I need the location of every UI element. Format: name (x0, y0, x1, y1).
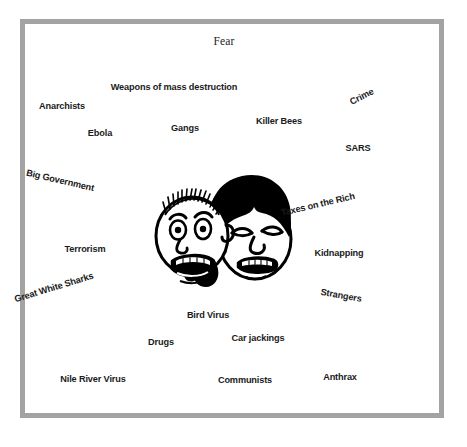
label-terrorism: Terrorism (65, 245, 106, 254)
label-kidnapping: Kidnapping (314, 249, 363, 258)
fear-poster: Fear (0, 0, 467, 447)
frightened-faces-illustration (150, 163, 314, 297)
label-ebola: Ebola (88, 129, 112, 138)
label-car-jackings: Car jackings (232, 334, 285, 343)
label-communists: Communists (218, 376, 272, 385)
label-anarchists: Anarchists (39, 102, 85, 111)
label-gangs: Gangs (171, 124, 199, 133)
label-anthrax: Anthrax (323, 373, 357, 382)
label-sars: SARS (346, 144, 371, 153)
label-drugs: Drugs (148, 338, 174, 347)
page-title: Fear (213, 35, 234, 47)
label-killer-bees: Killer Bees (256, 117, 302, 126)
label-bird-virus: Bird Virus (187, 311, 229, 320)
label-weapons-of-mass-destruction: Weapons of mass destruction (111, 83, 237, 92)
label-nile-river-virus: Nile River Virus (60, 375, 125, 384)
